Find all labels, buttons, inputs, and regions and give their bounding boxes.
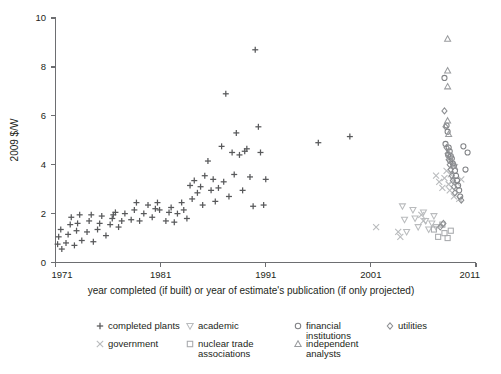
data-point xyxy=(442,231,447,236)
legend-label-text: completed plants xyxy=(108,320,180,331)
data-point xyxy=(233,130,239,136)
data-point-glyph xyxy=(445,118,451,123)
data-point xyxy=(441,175,447,181)
data-point-glyph xyxy=(445,36,451,41)
data-point xyxy=(74,228,80,234)
data-point xyxy=(107,222,113,228)
data-point xyxy=(133,200,139,206)
x-axis-title: year completed (if built) or year of est… xyxy=(88,285,415,296)
x-tick-label: 1971 xyxy=(52,269,73,280)
data-point-glyph xyxy=(431,214,437,219)
data-point-glyph xyxy=(399,204,405,209)
legend-marker-circle-icon xyxy=(295,323,300,328)
legend-marker-square-icon xyxy=(187,341,192,346)
data-point xyxy=(90,239,96,245)
data-point xyxy=(171,219,177,225)
data-point xyxy=(373,224,379,230)
data-point xyxy=(86,218,92,224)
legend-marker-cross-icon xyxy=(97,341,103,347)
data-point xyxy=(99,213,105,219)
x-tick-label: 2001 xyxy=(360,269,381,280)
x-tick-label: 1981 xyxy=(150,269,171,280)
legend-label-text: academic xyxy=(198,320,239,331)
data-point-glyph xyxy=(442,108,447,114)
data-point xyxy=(131,207,137,213)
data-point xyxy=(174,211,180,217)
data-point xyxy=(315,140,321,146)
legend-item-utilities[interactable]: utilities xyxy=(387,320,427,331)
data-point xyxy=(445,36,451,41)
data-point xyxy=(149,214,155,220)
data-point xyxy=(97,220,103,226)
data-point xyxy=(58,226,64,232)
chart-legend: completed plantsacademicfinancialinstitu… xyxy=(97,320,427,359)
data-point xyxy=(210,176,216,182)
legend-item-independent-analysts[interactable]: independentanalysts xyxy=(295,338,359,359)
data-point xyxy=(65,231,71,237)
legend-label-text: utilities xyxy=(398,320,427,331)
data-point xyxy=(109,215,115,221)
scatter-plot-figure: 0246810 2009 $/W 19711981199120012011 ye… xyxy=(0,0,501,374)
y-axis-group: 0246810 2009 $/W xyxy=(9,12,56,268)
legend-item-nuclear-trade-associations[interactable]: nuclear tradeassociations xyxy=(187,338,253,359)
x-axis-group: 19711981199120012011 year completed (if … xyxy=(52,263,481,297)
data-point xyxy=(59,246,65,252)
chart-canvas: 0246810 2009 $/W 19711981199120012011 ye… xyxy=(0,0,501,374)
data-point xyxy=(200,202,206,208)
data-point-glyph xyxy=(445,68,451,73)
data-point xyxy=(436,234,441,239)
data-point-glyph xyxy=(448,228,453,233)
data-point xyxy=(447,187,453,193)
data-point xyxy=(157,207,163,213)
legend-item-government[interactable]: government xyxy=(97,338,159,349)
legend-label-text: government xyxy=(108,338,159,349)
data-point xyxy=(399,204,405,209)
data-point xyxy=(184,215,190,221)
data-point xyxy=(442,108,447,114)
data-point xyxy=(439,185,445,191)
data-point xyxy=(128,217,134,223)
data-point-glyph xyxy=(442,231,447,236)
data-point xyxy=(250,203,256,209)
legend-item-completed-plants[interactable]: completed plants xyxy=(97,320,180,331)
data-point xyxy=(412,216,418,221)
data-point xyxy=(463,167,468,172)
data-point xyxy=(445,118,451,123)
data-point xyxy=(202,173,208,179)
x-axis-ticks: 19711981199120012011 xyxy=(52,263,481,281)
data-point xyxy=(226,193,232,199)
legend-item-academic[interactable]: academic xyxy=(187,320,239,331)
data-point-glyph xyxy=(442,75,447,80)
data-point xyxy=(194,190,200,196)
y-tick-label: 10 xyxy=(35,12,46,23)
data-point xyxy=(445,68,451,73)
data-point xyxy=(116,224,122,230)
data-point xyxy=(208,187,214,193)
data-point xyxy=(236,152,242,158)
data-point xyxy=(95,226,101,232)
series-completed-plants xyxy=(55,47,353,252)
data-point xyxy=(231,171,237,177)
legend-label-text: associations xyxy=(198,348,251,359)
data-point-glyph xyxy=(426,227,432,232)
data-point xyxy=(219,143,225,149)
data-point xyxy=(221,179,227,185)
legend-marker-plus-icon xyxy=(97,323,103,329)
legend-marker-triangle-down-icon xyxy=(187,323,193,329)
data-point xyxy=(223,91,229,97)
data-point xyxy=(145,202,151,208)
data-point xyxy=(445,236,450,241)
y-tick-label: 8 xyxy=(41,61,46,72)
data-point xyxy=(141,211,147,217)
legend-marker-diamond-icon-glyph xyxy=(387,323,392,329)
y-tick-label: 6 xyxy=(41,110,46,121)
data-point-glyph xyxy=(461,144,466,149)
data-point xyxy=(71,242,77,248)
data-point xyxy=(410,208,416,213)
data-point xyxy=(252,47,258,53)
data-point xyxy=(79,237,85,243)
series-utilities xyxy=(438,108,464,230)
legend-marker-triangle-up-icon xyxy=(295,341,301,347)
data-point xyxy=(448,228,453,233)
data-point-glyph xyxy=(404,230,410,235)
